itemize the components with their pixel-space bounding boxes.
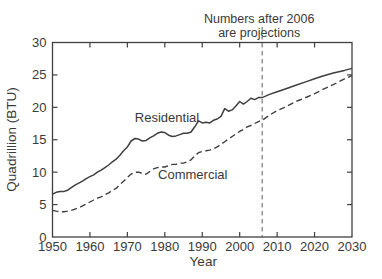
y-tick-label: 15 (32, 132, 46, 147)
annotation-line-1: Numbers after 2006 (204, 12, 315, 26)
commercial-label: Commercial (158, 167, 227, 182)
residential-label: Residential (135, 110, 199, 125)
x-tick-label: 2030 (338, 239, 367, 254)
x-tick-label: 2010 (263, 239, 292, 254)
y-tick-label: 10 (32, 165, 46, 180)
x-tick-label: 1980 (150, 239, 179, 254)
chart-canvas: 1950196019701980199020002010202020300510… (0, 0, 382, 279)
y-tick-label: 25 (32, 67, 46, 82)
y-axis-label: Quadrillion (BTU) (4, 87, 19, 191)
y-tick-label: 5 (39, 197, 46, 212)
annotation-line-2: are projections (218, 26, 300, 40)
commercial-line (53, 76, 353, 212)
y-tick-label: 30 (32, 35, 46, 50)
energy-consumption-line-chart: 1950196019701980199020002010202020300510… (0, 0, 382, 279)
y-tick-label: 0 (39, 230, 46, 245)
x-tick-label: 2000 (225, 239, 254, 254)
x-tick-label: 1970 (113, 239, 142, 254)
x-tick-label: 1960 (75, 239, 104, 254)
x-tick-label: 2020 (300, 239, 329, 254)
y-tick-label: 20 (32, 100, 46, 115)
plot-border (53, 43, 353, 238)
x-tick-label: 1990 (188, 239, 217, 254)
x-axis-label: Year (190, 254, 218, 269)
